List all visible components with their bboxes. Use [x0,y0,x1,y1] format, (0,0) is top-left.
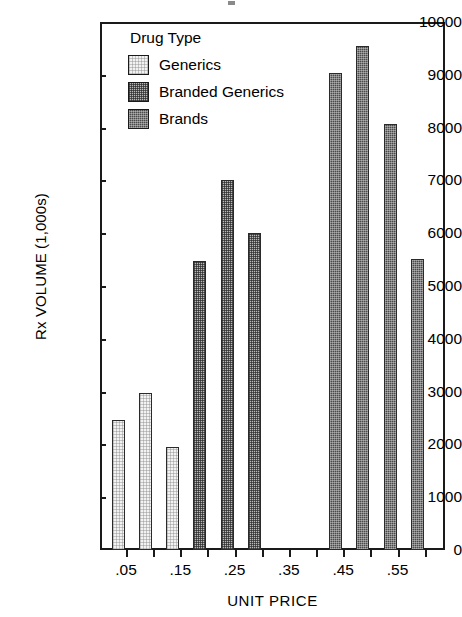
bar-branded-generics-2 [248,233,261,550]
y-tick-label: 6000 [404,225,462,241]
legend-item-label: Generics [159,57,221,73]
x-tick-mark [370,550,372,557]
x-tick-mark [180,550,182,557]
bar-brands-3 [411,259,424,550]
x-tick-mark [316,550,318,557]
x-tick-mark [153,550,155,557]
y-tick-mark [100,233,106,235]
y-tick-mark [100,444,106,446]
bar-brands-0 [329,73,342,550]
scan-artifact [228,1,235,5]
bar-brands-1 [356,46,369,550]
y-tick-mark [100,75,106,77]
bar-chart: Rx VOLUME (1,000s) 100009000800070006000… [0,0,462,617]
legend: Drug Type GenericsBranded GenericsBrands [128,30,338,133]
y-tick-mark [100,339,106,341]
y-tick-label: 9000 [404,67,462,83]
x-tick-mark [398,550,400,557]
x-tick-mark [207,550,209,557]
y-tick-mark [100,180,106,182]
x-tick-mark [425,550,427,557]
x-tick-mark [126,550,128,557]
x-tick-label: .05 [103,562,149,578]
x-tick-label: .15 [157,562,203,578]
bar-generics-1 [139,393,152,550]
x-tick-label: .45 [320,562,366,578]
x-tick-label: .25 [212,562,258,578]
y-tick-label: 8000 [404,120,462,136]
x-tick-mark [343,550,345,557]
y-tick-label: 7000 [404,172,462,188]
x-tick-mark [289,550,291,557]
x-axis-title: UNIT PRICE [100,592,445,609]
y-tick-mark [100,128,106,130]
legend-item-branded-generics: Branded Generics [128,79,338,106]
y-axis-title: Rx VOLUME (1,000s) [32,57,49,477]
bar-generics-2 [166,447,179,550]
x-tick-label: .35 [266,562,312,578]
legend-swatch-icon [128,82,149,102]
x-tick-label: .55 [375,562,421,578]
x-tick-mark [262,550,264,557]
legend-swatch-icon [128,55,149,75]
legend-item-brands: Brands [128,106,338,133]
y-tick-mark [100,497,106,499]
x-tick-mark [235,550,237,557]
legend-item-generics: Generics [128,52,338,79]
bar-brands-2 [384,124,397,550]
bar-generics-0 [112,420,125,550]
y-tick-mark [100,392,106,394]
legend-swatch-icon [128,109,149,129]
legend-title: Drug Type [128,30,338,46]
legend-item-label: Brands [159,111,208,127]
legend-item-label: Branded Generics [159,84,284,100]
bar-branded-generics-0 [193,261,206,550]
bar-branded-generics-1 [221,180,234,550]
y-tick-mark [100,286,106,288]
y-tick-label: 10000 [404,14,462,30]
